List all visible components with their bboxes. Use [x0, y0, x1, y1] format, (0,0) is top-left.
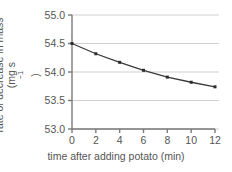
data-point-marker — [71, 42, 74, 45]
data-point-marker — [118, 61, 121, 64]
data-point-marker — [214, 85, 217, 88]
x-axis-title: time after adding potato (min) — [0, 150, 232, 162]
x-tick-label: 10 — [185, 134, 197, 146]
chart-figure: 53.053.554.054.555.0024681012 rate of de… — [0, 0, 232, 172]
data-series-line — [72, 44, 215, 87]
y-tick-label: 53.5 — [45, 94, 66, 106]
data-point-marker — [94, 52, 97, 55]
y-axis-units-exponent: −1 — [16, 71, 25, 80]
x-tick-label: 6 — [141, 134, 147, 146]
y-tick-label: 53.0 — [45, 123, 66, 135]
data-point-marker — [166, 76, 169, 79]
y-tick-label: 54.5 — [45, 37, 66, 49]
x-tick-label: 8 — [164, 134, 170, 146]
y-tick-label: 55.0 — [45, 9, 66, 21]
y-tick-label: 54.0 — [45, 66, 66, 78]
y-axis-units-suffix: ) — [29, 62, 41, 88]
y-axis-title: rate of decrease in mass (mg s−1) — [2, 10, 32, 140]
x-tick-label: 12 — [209, 134, 221, 146]
y-axis-title-line2: (mg s−1) — [5, 62, 41, 88]
x-tick-label: 2 — [93, 134, 99, 146]
x-tick-label: 0 — [69, 134, 75, 146]
x-tick-label: 4 — [117, 134, 123, 146]
data-point-marker — [190, 81, 193, 84]
data-point-marker — [142, 69, 145, 72]
